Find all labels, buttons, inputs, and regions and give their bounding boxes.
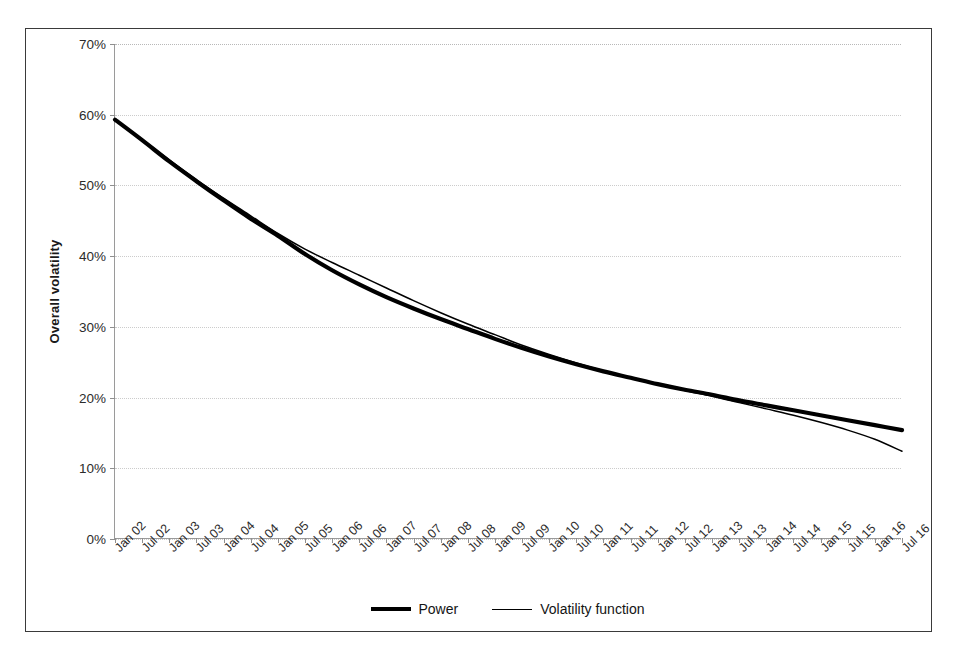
legend-item-power: Power	[371, 602, 459, 616]
series-lines	[115, 44, 902, 539]
y-axis-tick-label: 20%	[79, 390, 106, 405]
y-axis-tick-label: 10%	[79, 461, 106, 476]
y-axis-tick-label: 0%	[86, 532, 106, 547]
plot-area: 0%10%20%30%40%50%60%70% Jan 02Jul 02Jan …	[114, 44, 901, 539]
legend-swatch-power-icon	[371, 607, 411, 611]
chart-figure: Overall volatility 0%10%20%30%40%50%60%7…	[0, 0, 957, 654]
legend-item-volatility-function: Volatility function	[492, 602, 644, 616]
y-axis-tick-label: 50%	[79, 178, 106, 193]
y-axis-tick-label: 70%	[79, 37, 106, 52]
chart-legend: Power Volatility function	[114, 602, 901, 616]
legend-label-power: Power	[419, 602, 459, 616]
plot-wrapper: 0%10%20%30%40%50%60%70% Jan 02Jul 02Jan …	[114, 44, 901, 539]
y-axis-tick-label: 60%	[79, 107, 106, 122]
y-axis-title-label: Overall volatility	[47, 239, 62, 343]
legend-swatch-volatility-function-icon	[492, 609, 532, 610]
y-axis-title: Overall volatility	[44, 44, 64, 539]
y-axis-tick-label: 30%	[79, 319, 106, 334]
legend-label-volatility-function: Volatility function	[540, 602, 644, 616]
y-axis-tick-label: 40%	[79, 249, 106, 264]
line-volatility-function	[115, 120, 902, 452]
line-power	[115, 120, 902, 430]
